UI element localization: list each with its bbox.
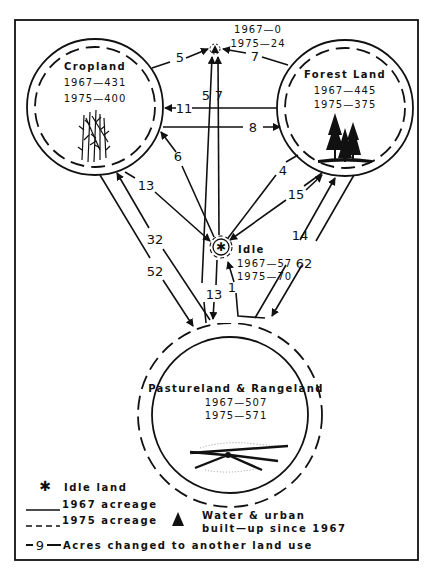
water-urban-1967: 1967—0 xyxy=(234,24,282,35)
idle-asterisk-icon: ✱ xyxy=(216,240,226,254)
cropland-node: Cropland 1967—431 1975—400 xyxy=(27,39,163,175)
idle-label: Idle xyxy=(238,244,265,255)
flow-arrow-forest-pasture xyxy=(272,175,354,316)
flow-arrow-idle-water xyxy=(218,57,219,235)
flow-label-forest-pasture: 62 xyxy=(296,256,313,271)
legend-water-urban-triangle-icon xyxy=(172,512,184,526)
flow-label-forest-cropland: 11 xyxy=(176,101,193,116)
cropland-1975: 1975—400 xyxy=(64,93,127,104)
flow-label-idle-cropland: 6 xyxy=(174,149,182,164)
legend-water-urban-line2: built—up since 1967 xyxy=(202,523,347,534)
flow-label-pasture-forest: 14 xyxy=(292,228,309,243)
water-urban-node: 1967—0 1975—24 xyxy=(210,24,286,54)
flow-label-idle-forest: 4 xyxy=(279,163,287,178)
flow-arrow-cropland-pasture xyxy=(100,175,193,326)
land-use-change-diagram: Cropland 1967—431 1975—400 Forest Land 1… xyxy=(0,0,433,577)
trees-icon xyxy=(318,113,372,163)
legend-flow-desc: Acres changed to another land use xyxy=(63,540,313,551)
legend-flow-sample: 9 xyxy=(36,538,44,553)
water-urban-triangle-icon xyxy=(211,45,219,53)
crop-plant-icon xyxy=(78,110,110,162)
legend-idle-asterisk-icon: ✱ xyxy=(39,478,51,494)
pasture-1975: 1975—571 xyxy=(205,410,268,421)
flow-label-pasture-cropland: 32 xyxy=(147,232,164,247)
legend-1975-acreage: 1975 acreage xyxy=(62,515,158,526)
flow-label-cropland-pasture: 52 xyxy=(147,264,164,279)
flow-label-cropland-water: 5 xyxy=(176,50,184,65)
flow-label-pasture-water: 5 xyxy=(202,88,210,103)
grassland-icon xyxy=(190,443,288,472)
forest-1967: 1967—445 xyxy=(314,85,377,96)
cropland-1967: 1967—431 xyxy=(64,77,127,88)
pasture-node: Pastureland & Rangeland 1967—507 1975—57… xyxy=(138,315,324,507)
flow-label-pasture-idle: 1 xyxy=(228,280,236,295)
flow-label-cropland-forest: 8 xyxy=(249,120,257,135)
cropland-label: Cropland xyxy=(64,61,126,72)
legend-1967-acreage: 1967 acreage xyxy=(62,499,158,510)
legend-idle-land: Idle land xyxy=(64,482,127,493)
flow-arrow-pasture-cropland xyxy=(117,173,210,320)
flow-label-idle-water: 7 xyxy=(215,88,223,103)
water-urban-1975: 1975—24 xyxy=(230,38,285,49)
forest-label: Forest Land xyxy=(304,69,386,80)
idle-1975: 1975—70 xyxy=(237,271,292,282)
pasture-1967: 1967—507 xyxy=(205,397,268,408)
forest-1975: 1975—375 xyxy=(314,99,377,110)
legend: ✱ Idle land 1967 acreage 1975 acreage Wa… xyxy=(26,478,347,553)
pasture-label: Pastureland & Rangeland xyxy=(148,383,324,394)
flow-label-forest-water: 7 xyxy=(251,49,259,64)
flow-label-cropland-idle: 13 xyxy=(138,178,155,193)
legend-water-urban-line1: Water & urban xyxy=(202,510,305,521)
flow-label-forest-idle: 15 xyxy=(288,187,305,202)
flow-label-idle-pasture: 13 xyxy=(206,287,223,302)
